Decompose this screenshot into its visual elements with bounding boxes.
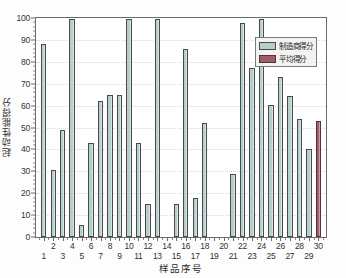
x-tick-label: 17 [191,251,200,261]
x-tick-mark [271,238,272,241]
bar-manufacturer [88,143,93,237]
x-tick-label: 25 [266,251,275,261]
x-tick-label: 29 [304,251,313,261]
x-tick-label: 1 [42,251,46,261]
x-tick-minor [285,238,286,240]
x-tick-mark [119,238,120,241]
y-tick-label: 80 [21,57,30,67]
bar-manufacturer [107,95,112,237]
x-tick-minor [276,238,277,240]
x-tick-label: 6 [89,241,93,251]
bar-slot [219,18,228,237]
bar-slot [105,18,114,237]
x-tick-mark [63,238,64,241]
x-axis-label: 样品序号 [35,261,327,275]
bar-slot [191,18,200,237]
x-tick-label: 26 [276,241,285,251]
x-tick-mark [82,238,83,241]
bar-slot [115,18,124,237]
x-tick-mark [44,238,45,241]
bar-manufacturer [306,149,311,237]
bar-slot [200,18,209,237]
x-tick-label: 12 [143,241,152,251]
x-tick-minor [67,238,68,240]
y-tick-label: 70 [21,79,30,89]
y-tick-label: 30 [21,166,30,176]
x-tick-label: 28 [295,241,304,251]
x-tick-label: 10 [124,241,133,251]
x-tick-minor [323,238,324,240]
x-tick-label: 3 [60,251,64,261]
x-tick-minor [200,238,201,240]
bar-manufacturer [183,49,188,237]
legend-swatch-average [259,55,276,63]
x-tick-label: 18 [200,241,209,251]
x-tick-minor [304,238,305,240]
x-tick-minor [172,238,173,240]
x-tick-label: 22 [238,241,247,251]
bar-manufacturer [174,204,179,237]
x-tick-label: 24 [257,241,266,251]
x-tick-mark [195,238,196,241]
x-tick-label: 2 [51,241,55,251]
bar-manufacturer [145,204,150,237]
y-tick-label: 50 [21,123,30,133]
chart-legend: 制造商得分 平均得分 [255,37,317,67]
x-tick-minor [190,238,191,240]
x-tick-minor [266,238,267,240]
x-tick-minor [105,238,106,240]
y-tick-label: 90 [21,35,30,45]
x-tick-label: 27 [285,251,294,261]
legend-item-manufacturer: 制造商得分 [259,40,313,51]
bar-slot [228,18,237,237]
x-tick-mark [157,238,158,241]
y-tick-label: 60 [21,101,30,111]
x-tick-minor [124,238,125,240]
x-tick-label: 8 [108,241,112,251]
bar-slot [209,18,218,237]
bar-manufacturer [117,95,122,237]
bar-manufacturer [268,105,273,237]
x-tick-label: 13 [153,251,162,261]
x-tick-label: 14 [162,241,171,251]
bar-manufacturer [41,44,46,237]
bar-average [316,121,321,237]
bar-slot [86,18,95,237]
x-tick-minor [181,238,182,240]
legend-label-manufacturer: 制造商得分 [279,40,313,51]
x-tick-mark [309,238,310,241]
x-tick-label: 11 [134,251,142,261]
bar-slot [134,18,143,237]
x-tick-minor [134,238,135,240]
bar-manufacturer [79,225,84,237]
bar-slot [153,18,162,237]
bar-manufacturer [98,101,103,237]
bar-manufacturer [287,96,292,237]
bar-slot [162,18,171,237]
y-tick-label: 20 [21,188,30,198]
x-tick-label: 23 [248,251,257,261]
x-tick-minor [295,238,296,240]
bar-slot [172,18,181,237]
x-tick-minor [48,238,49,240]
legend-item-average: 平均得分 [259,53,313,64]
bar-manufacturer [126,19,131,237]
x-tick-minor [143,238,144,240]
x-tick-minor [314,238,315,240]
x-tick-minor [115,238,116,240]
x-tick-mark [101,238,102,241]
x-tick-minor [238,238,239,240]
x-tick-label: 19 [210,251,219,261]
x-tick-mark [138,238,139,241]
bar-slot [96,18,105,237]
x-tick-minor [219,238,220,240]
x-tick-minor [77,238,78,240]
bar-slot [238,18,247,237]
y-axis-ticks: 0102030405060708090100 [0,17,35,238]
y-tick-label: 10 [21,210,30,220]
x-tick-minor [162,238,163,240]
x-tick-mark [252,238,253,241]
bar-manufacturer [69,19,74,237]
x-tick-minor [153,238,154,240]
bar-slot [181,18,190,237]
